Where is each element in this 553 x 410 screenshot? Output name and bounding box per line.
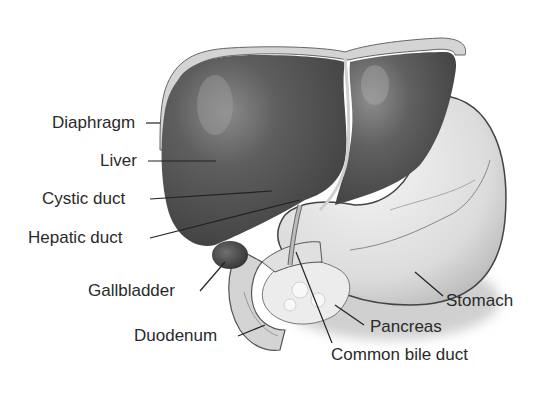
label-duodenum: Duodenum (134, 326, 217, 346)
label-hepatic-duct: Hepatic duct (28, 228, 123, 248)
anatomy-diagram: Diaphragm Liver Cystic duct Hepatic duct… (0, 0, 553, 410)
label-diaphragm: Diaphragm (52, 113, 135, 133)
label-gallbladder: Gallbladder (88, 281, 175, 301)
label-pancreas: Pancreas (370, 317, 442, 337)
label-liver: Liver (100, 151, 137, 171)
label-cystic-duct: Cystic duct (42, 189, 125, 209)
gallbladder-shape (212, 241, 248, 269)
label-common-bile-duct: Common bile duct (331, 345, 468, 365)
label-stomach: Stomach (446, 291, 513, 311)
